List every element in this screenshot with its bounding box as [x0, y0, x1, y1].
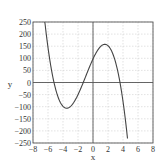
cubic-curve	[45, 22, 128, 138]
y-tick-label: 150	[19, 42, 31, 51]
y-tick-label: 50	[23, 66, 31, 75]
x-tick-label: −8	[29, 145, 38, 154]
y-tick-label: 200	[19, 30, 31, 39]
x-tick-label: −2	[74, 145, 83, 154]
x-axis-label: x	[91, 152, 96, 162]
y-tick-labels: 250200150100500−50−100−150−200−250	[14, 18, 31, 148]
y-tick-label: −100	[14, 103, 31, 112]
y-tick-label: −200	[14, 127, 31, 136]
x-tick-label: 6	[136, 145, 140, 154]
y-tick-label: −150	[14, 115, 31, 124]
y-tick-label: −50	[18, 91, 31, 100]
zero-axes	[33, 22, 153, 143]
y-tick-label: 100	[19, 54, 31, 63]
x-tick-label: 4	[121, 145, 125, 154]
x-tick-label: 8	[151, 145, 155, 154]
y-tick-label: 0	[27, 79, 31, 88]
x-tick-label: −6	[44, 145, 53, 154]
cubic-function-chart: 250200150100500−50−100−150−200−250 −8−6−…	[0, 0, 161, 164]
x-tick-label: −4	[59, 145, 68, 154]
x-tick-label: 2	[106, 145, 110, 154]
y-tick-label: 250	[19, 18, 31, 27]
y-axis-label: y	[8, 79, 13, 89]
